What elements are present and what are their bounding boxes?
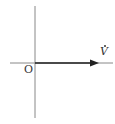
phasor-v-arrowhead-icon xyxy=(90,60,99,67)
phasor-dot-accent xyxy=(104,45,106,47)
phasor-diagram-canvas xyxy=(0,0,115,124)
origin-label: O xyxy=(24,63,33,76)
